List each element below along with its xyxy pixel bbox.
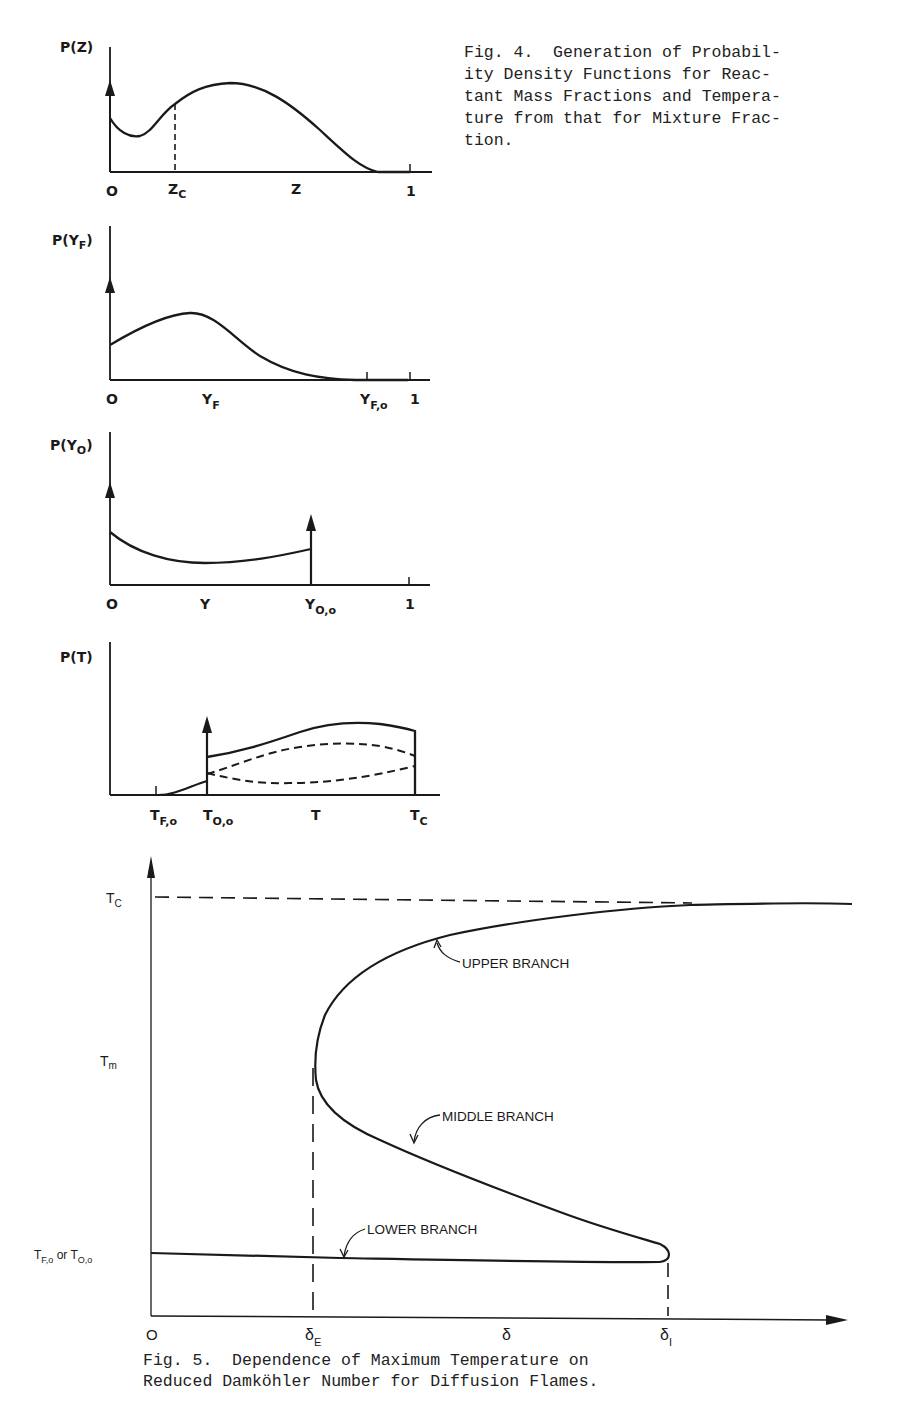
- figure-5-caption: Fig. 5. Dependence of Maximum Temperatur…: [143, 1350, 763, 1392]
- middle-branch-leader: [414, 1115, 440, 1141]
- x-label-delta-i: δI: [660, 1326, 672, 1348]
- arrow-head-icon: [105, 482, 115, 498]
- x-tick-tfo: TF,o: [150, 807, 177, 828]
- pdf-curve-component-upper: [207, 744, 415, 775]
- x-tick-one: 1: [406, 183, 416, 199]
- pdf-curve: [110, 532, 311, 563]
- y-label-tc: TC: [106, 890, 122, 909]
- middle-branch-label: MIDDLE BRANCH: [442, 1109, 554, 1124]
- x-label-t: T: [311, 807, 321, 823]
- x-tick-one: 1: [410, 391, 420, 407]
- pdf-panel-fuel: [105, 226, 430, 380]
- pdf-curve: [110, 83, 410, 172]
- pdf-panel-oxidizer: [105, 432, 430, 585]
- y-label: P(T): [60, 649, 93, 665]
- y-label-base: TF,o or TO,o: [34, 1248, 92, 1265]
- x-axis: [151, 1316, 830, 1320]
- x-axis-arrow-icon: [826, 1315, 848, 1325]
- x-tick-origin: O: [106, 391, 118, 407]
- tc-asymptote-dashed: [155, 897, 692, 903]
- pdf-panel-mixture-fraction: [105, 47, 432, 172]
- x-label-z: Z: [291, 181, 301, 197]
- pdf-panel-temperature: [110, 642, 440, 795]
- x-label-y: Y: [199, 596, 211, 612]
- pdf-curve-total: [207, 723, 415, 795]
- arrow-head-icon: [306, 514, 316, 531]
- x-tick-origin: O: [106, 596, 118, 612]
- y-label: P(Z): [60, 39, 93, 55]
- x-tick-one: 1: [405, 596, 415, 612]
- pdf-curve-component-lower: [207, 766, 415, 783]
- arrow-head-icon: [105, 80, 115, 96]
- y-label-tm: Tm: [100, 1053, 117, 1071]
- lower-branch-label: LOWER BRANCH: [367, 1222, 477, 1237]
- caption-line: Reduced Damköhler Number for Diffusion F…: [143, 1371, 763, 1392]
- s-curve-chart: [147, 856, 852, 1325]
- upper-branch-label: UPPER BRANCH: [462, 956, 569, 971]
- x-tick-too: TO,o: [203, 807, 234, 828]
- x-tick-yfo: YF,o: [359, 391, 388, 412]
- caption-line: Fig. 5. Dependence of Maximum Temperatur…: [143, 1350, 763, 1371]
- figures-canvas: P(Z) O ZC Z 1 P(YF) O YF YF,o 1 P(YO) O …: [0, 0, 900, 1417]
- x-tick-zc: ZC: [168, 181, 186, 201]
- x-tick-origin: O: [106, 183, 118, 199]
- y-axis-arrow-icon: [147, 856, 155, 878]
- pdf-curve: [110, 313, 408, 380]
- arrow-head-icon: [202, 716, 212, 733]
- pdf-curve-rise: [158, 781, 207, 795]
- y-label: P(YO): [50, 437, 93, 457]
- y-label: P(YF): [52, 232, 93, 252]
- x-label-delta: δ: [502, 1326, 511, 1343]
- x-label-delta-e: δE: [305, 1326, 321, 1348]
- arrow-head-icon: [105, 277, 115, 293]
- x-label-origin: O: [146, 1326, 158, 1343]
- x-tick-yoo: YO,o: [304, 596, 336, 617]
- x-label-yf: YF: [201, 391, 220, 412]
- x-tick-tc: TC: [410, 807, 428, 828]
